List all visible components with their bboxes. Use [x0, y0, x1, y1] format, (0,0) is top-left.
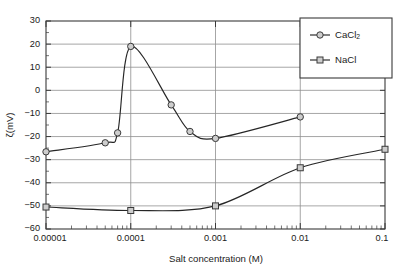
data-point — [187, 128, 193, 134]
zeta-potential-line-chart: 3020100−10−20−30−40−50−60 0.000010.00010… — [0, 0, 400, 272]
y-tick-label: 0 — [35, 85, 40, 95]
data-point — [297, 114, 303, 120]
chart-legend: CaCl2NaCl — [300, 18, 392, 78]
y-tick-label: −50 — [24, 200, 40, 210]
y-tick-label: −10 — [24, 108, 40, 118]
y-tick-label: −40 — [24, 177, 40, 187]
data-point — [212, 135, 218, 141]
y-tick-label: −60 — [24, 223, 40, 233]
x-axis-tick-labels: 0.000010.00010.0010.010.1 — [33, 233, 388, 243]
x-tick-label: 0.01 — [291, 233, 309, 243]
y-axis-title: ζ(mV) — [4, 112, 15, 137]
y-tick-label: −20 — [24, 131, 40, 141]
data-point — [128, 208, 134, 214]
x-tick-label: 0.001 — [204, 233, 227, 243]
legend-label-subscript: 2 — [356, 33, 360, 40]
data-point — [43, 204, 49, 210]
y-tick-label: −30 — [24, 154, 40, 164]
x-tick-label: 0.0001 — [117, 233, 145, 243]
y-tick-label: 10 — [30, 62, 40, 72]
legend-label-NaCl: NaCl — [335, 54, 356, 65]
data-point — [297, 165, 303, 171]
x-tick-label: 0.1 — [376, 233, 389, 243]
series-line-CaCl2 — [46, 46, 300, 152]
data-point — [102, 140, 108, 146]
data-point — [168, 102, 174, 108]
x-axis-title: Salt concentration (M) — [169, 253, 263, 264]
legend-marker-NaCl — [317, 57, 323, 63]
data-point — [128, 43, 134, 49]
x-tick-label: 0.00001 — [33, 233, 66, 243]
data-point — [382, 146, 388, 152]
y-axis-tick-labels: 3020100−10−20−30−40−50−60 — [24, 15, 40, 233]
legend-box — [300, 18, 392, 78]
y-tick-label: 20 — [30, 39, 40, 49]
data-point — [213, 203, 219, 209]
data-point — [114, 130, 120, 136]
data-point — [43, 149, 49, 155]
chart-figure: 3020100−10−20−30−40−50−60 0.000010.00010… — [0, 0, 400, 272]
y-tick-label: 30 — [30, 15, 40, 25]
legend-marker-CaCl2 — [317, 32, 323, 38]
